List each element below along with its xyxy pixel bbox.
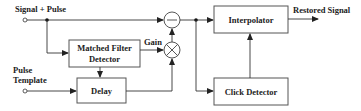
block-diagram: Signal + Pulse Matched Filter Detector G… <box>0 0 361 111</box>
to-click-detector-line <box>196 20 213 91</box>
template-input-port-icon <box>23 89 27 93</box>
multiply-operator <box>164 42 180 58</box>
delay-label: Delay <box>91 86 113 96</box>
matched-filter-label: Matched Filter <box>77 43 132 53</box>
subtract-operator <box>164 12 180 28</box>
restored-signal-label: Restored Signal <box>293 5 351 15</box>
matched-filter-detector-block: Matched Filter Detector <box>69 40 140 67</box>
detector-label: Detector <box>89 54 120 64</box>
template-label: Template <box>13 75 47 85</box>
click-detector-label: Click Detector <box>225 87 278 97</box>
click-detector-block: Click Detector <box>214 78 288 105</box>
signal-pulse-label: Signal + Pulse <box>15 4 66 14</box>
pulse-label: Pulse <box>13 65 33 75</box>
delay-block: Delay <box>77 78 126 103</box>
interpolator-label: Interpolator <box>229 15 274 25</box>
interpolator-block: Interpolator <box>214 6 288 33</box>
signal-to-filter-line <box>47 20 68 53</box>
gain-label: Gain <box>144 37 162 47</box>
signal-input-port-icon <box>23 18 27 22</box>
